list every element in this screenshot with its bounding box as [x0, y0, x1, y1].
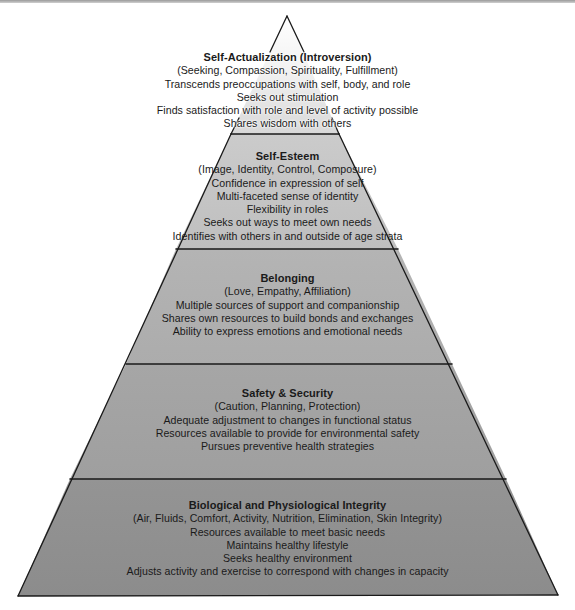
- tier-line: Resources available to provide for envir…: [0, 427, 575, 440]
- tier-line: Seeks out stimulation: [0, 91, 575, 104]
- tier-line: (Love, Empathy, Affiliation): [0, 285, 575, 298]
- tier-title: Safety & Security: [0, 387, 575, 400]
- tier-line: Resources available to meet basic needs: [0, 526, 575, 539]
- tier-title: Self-Actualization (Introversion): [0, 51, 575, 64]
- tier-line: Shares own resources to build bonds and …: [0, 312, 575, 325]
- tier-line: Seeks out ways to meet own needs: [0, 216, 575, 229]
- tier-line: Multiple sources of support and companio…: [0, 299, 575, 312]
- tier-self-actualization: Self-Actualization (Introversion) (Seeki…: [0, 51, 575, 131]
- tier-line: (Air, Fluids, Comfort, Activity, Nutriti…: [0, 512, 575, 525]
- tier-title: Biological and Physiological Integrity: [0, 499, 575, 512]
- tier-belonging: Belonging (Love, Empathy, Affiliation) M…: [0, 272, 575, 338]
- tier-self-esteem: Self-Esteem (Image, Identity, Control, C…: [0, 150, 575, 243]
- tier-line: Maintains healthy lifestyle: [0, 539, 575, 552]
- tier-safety-security: Safety & Security (Caution, Planning, Pr…: [0, 387, 575, 453]
- tier-line: Identifies with others in and outside of…: [0, 230, 575, 243]
- tier-line: Adjusts activity and exercise to corresp…: [0, 565, 575, 578]
- tier-line: (Image, Identity, Control, Composure): [0, 163, 575, 176]
- tier-biological-physiological: Biological and Physiological Integrity (…: [0, 499, 575, 579]
- tier-line: Finds satisfaction with role and level o…: [0, 104, 575, 117]
- tier-line: Seeks healthy environment: [0, 552, 575, 565]
- tier-line: Pursues preventive health strategies: [0, 440, 575, 453]
- tier-line: Flexibility in roles: [0, 203, 575, 216]
- tier-line: (Caution, Planning, Protection): [0, 400, 575, 413]
- tier-line: Shares wisdom with others: [0, 117, 575, 130]
- tier-line: (Seeking, Compassion, Spirituality, Fulf…: [0, 64, 575, 77]
- tier-line: Confidence in expression of self: [0, 177, 575, 190]
- tier-line: Transcends preoccupations with self, bod…: [0, 78, 575, 91]
- tier-line: Adequate adjustment to changes in functi…: [0, 414, 575, 427]
- tier-title: Belonging: [0, 272, 575, 285]
- tier-title: Self-Esteem: [0, 150, 575, 163]
- tier-line: Multi-faceted sense of identity: [0, 190, 575, 203]
- tier-line: Ability to express emotions and emotiona…: [0, 325, 575, 338]
